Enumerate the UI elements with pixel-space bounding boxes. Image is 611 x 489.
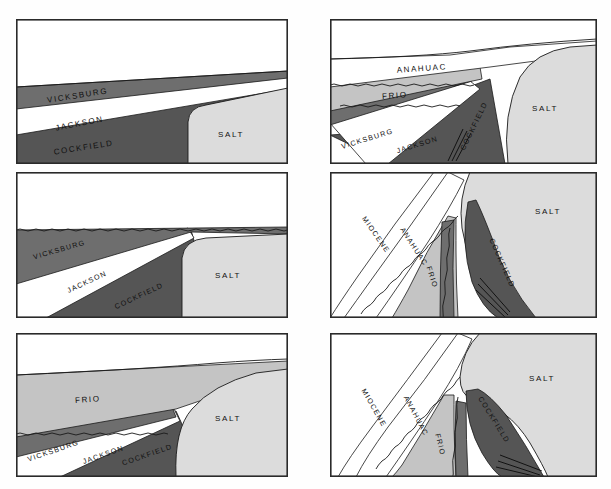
unit-salt-3 [182, 234, 288, 318]
cross-section-panel-6: MIOCENE ANAHUAC FRIO COCKFIELD SALT [330, 333, 597, 477]
panel-5-svg: FRIO VICKSBURG JACKSON COCKFIELD SALT [16, 333, 288, 477]
panel-3-svg: VICKSBURG JACKSON COCKFIELD SALT [16, 172, 288, 318]
cross-section-panel-2: ANAHUAC FRIO VICKSBURG JACKSON COCKFIELD… [330, 19, 597, 164]
cross-section-panel-3: VICKSBURG JACKSON COCKFIELD SALT [16, 172, 288, 318]
figure-root: VICKSBURG JACKSON COCKFIELD SALT [0, 0, 611, 489]
cross-section-panel-1: VICKSBURG JACKSON COCKFIELD SALT [16, 19, 288, 164]
panel-1-svg: VICKSBURG JACKSON COCKFIELD SALT [16, 19, 288, 164]
panel-2-svg: ANAHUAC FRIO VICKSBURG JACKSON COCKFIELD… [330, 19, 597, 164]
cross-section-panel-4: MIOCENE ANAHUAC FRIO COCKFIELD SALT [330, 172, 597, 318]
panel-4-svg: MIOCENE ANAHUAC FRIO COCKFIELD SALT [330, 172, 597, 318]
cross-section-panel-5: FRIO VICKSBURG JACKSON COCKFIELD SALT [16, 333, 288, 477]
panel-6-svg: MIOCENE ANAHUAC FRIO COCKFIELD SALT [330, 333, 597, 477]
